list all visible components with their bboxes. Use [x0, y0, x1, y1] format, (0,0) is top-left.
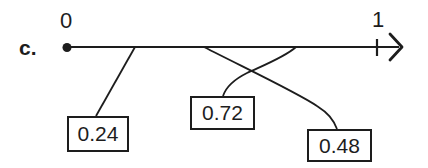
connector-line-0-24	[96, 47, 135, 116]
one-label: 1	[372, 9, 384, 31]
zero-label: 0	[60, 10, 72, 32]
value-box-0-24: 0.24	[67, 116, 129, 152]
origin-dot-icon	[63, 43, 72, 52]
value-box-0-72: 0.72	[190, 96, 255, 130]
item-label: c.	[19, 37, 37, 58]
number-line-exercise: c. 0 1 0.24 0.72 0.48	[0, 0, 428, 168]
value-box-0-48: 0.48	[307, 129, 372, 162]
